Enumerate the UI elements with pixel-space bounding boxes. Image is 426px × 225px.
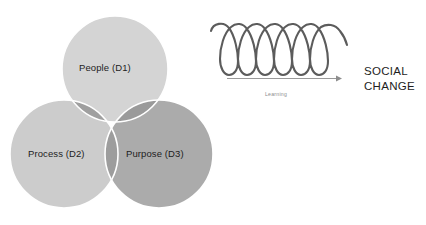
- learning-spiral-group: Learning: [207, 14, 367, 104]
- learning-arrow-head: [336, 76, 342, 82]
- venn-label-people: People (D1): [79, 63, 131, 73]
- venn-circles-svg: [0, 0, 226, 225]
- spiral-svg: [207, 14, 367, 104]
- social-change-line-2: CHANGE: [364, 79, 415, 94]
- venn-label-process: Process (D2): [28, 149, 85, 159]
- social-change-line-1: SOCIAL: [364, 64, 415, 79]
- spiral-path: [211, 24, 347, 75]
- venn-label-purpose: Purpose (D3): [126, 149, 184, 159]
- social-change-text: SOCIAL CHANGE: [364, 64, 415, 94]
- venn-diagram: People (D1) Process (D2) Purpose (D3): [0, 0, 226, 225]
- learning-arrow-label: Learning: [207, 92, 345, 97]
- diagram-canvas: People (D1) Process (D2) Purpose (D3) Le…: [0, 0, 426, 225]
